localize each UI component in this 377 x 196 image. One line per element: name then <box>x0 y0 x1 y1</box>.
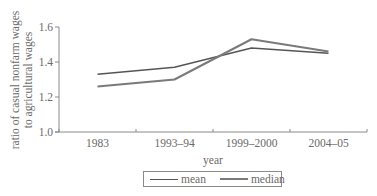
legend-item-median: median <box>220 173 285 185</box>
x-axis: 19831993–941999–20002004–05 <box>55 129 367 149</box>
y-axis: 1.01.21.41.6 <box>39 21 59 138</box>
line-chart: ratio of casual nonfarm wages to agricul… <box>0 0 377 196</box>
y-tick-label: 1.2 <box>39 91 54 103</box>
median-line-swatch-icon <box>220 178 248 180</box>
y-axis-label: ratio of casual nonfarm wages to agricul… <box>9 10 35 149</box>
mean-line-swatch-icon <box>150 179 178 180</box>
x-tick-label: 1983 <box>86 137 109 149</box>
x-axis-label: year <box>203 154 223 167</box>
legend-label-median: median <box>251 173 285 185</box>
svg-text:ratio of casual nonfarm wages: ratio of casual nonfarm wages <box>9 10 22 149</box>
legend: mean median <box>143 171 282 187</box>
legend-label-mean: mean <box>181 173 206 185</box>
legend-item-mean: mean <box>150 173 206 185</box>
series-line-mean <box>98 48 329 74</box>
y-tick-label: 1.6 <box>39 21 54 33</box>
y-tick-label: 1.4 <box>39 56 54 68</box>
x-tick-label: 2004–05 <box>308 137 349 149</box>
series-line-median <box>98 39 329 86</box>
data-series <box>98 39 329 86</box>
y-tick-label: 1.0 <box>39 126 54 138</box>
x-tick-label: 1999–2000 <box>226 137 278 149</box>
svg-text:to agricultural wages: to agricultural wages <box>22 31 35 128</box>
x-tick-label: 1993–94 <box>154 137 195 149</box>
